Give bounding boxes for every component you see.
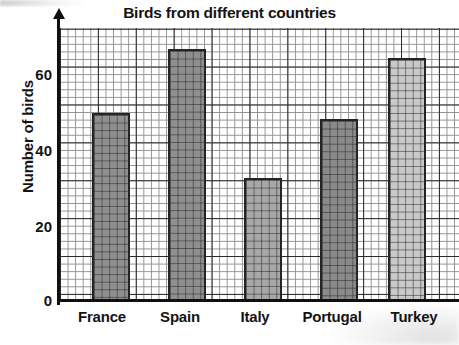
bar-spain — [168, 49, 206, 301]
x-axis-line — [57, 299, 459, 302]
bar-grid-overlay — [94, 115, 128, 299]
y-tick-20: 20 — [12, 218, 52, 235]
bar-portugal — [320, 119, 358, 301]
bar-grid-overlay — [170, 51, 204, 299]
x-tick-spain: Spain — [140, 308, 220, 325]
bar-grid-overlay — [322, 121, 356, 299]
x-tick-turkey: Turkey — [372, 308, 456, 325]
y-axis-tick-labels: 6040200 — [8, 0, 52, 345]
x-tick-italy: Italy — [218, 308, 292, 325]
x-tick-portugal: Portugal — [284, 308, 380, 325]
bar-grid-overlay — [390, 60, 424, 299]
y-tick-60: 60 — [12, 66, 52, 83]
y-tick-0: 0 — [12, 292, 52, 309]
bar-chart-figure: Birds from different countries Number of… — [0, 0, 459, 345]
bar-turkey — [388, 58, 426, 301]
bar-grid-overlay — [246, 180, 280, 299]
plot-area — [60, 28, 459, 301]
y-tick-40: 40 — [12, 142, 52, 159]
x-tick-france: France — [60, 308, 144, 325]
y-axis-line — [57, 17, 60, 305]
bar-france — [92, 113, 130, 301]
chart-title: Birds from different countries — [0, 4, 459, 22]
y-axis-arrow-icon — [53, 8, 65, 19]
bar-italy — [244, 178, 282, 301]
